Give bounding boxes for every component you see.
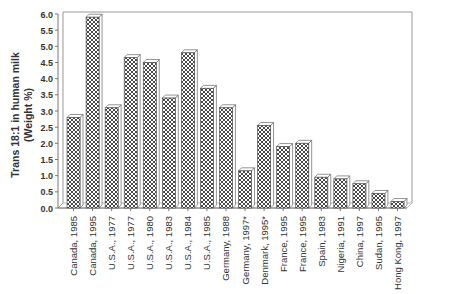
x-tick-label: Denmark, 1995*	[259, 216, 270, 285]
y-tick-label: 4.0	[40, 74, 53, 84]
bar	[258, 123, 274, 208]
bar	[353, 181, 369, 208]
y-axis: 0.00.51.01.52.02.53.03.54.04.55.05.56.0	[40, 10, 58, 214]
bar	[296, 140, 312, 208]
plot-area: 0.00.51.01.52.02.53.03.54.04.55.05.56.0 …	[0, 0, 455, 294]
bar	[334, 176, 350, 208]
y-tick-label: 0.5	[40, 187, 53, 197]
x-tick-label: U.S.A., 1984	[182, 216, 193, 270]
x-tick-label: U.S.A., 1985	[201, 216, 212, 270]
x-tick-label: China, 1997	[354, 216, 365, 267]
y-tick-label: 1.5	[40, 155, 53, 165]
bar	[315, 174, 331, 208]
x-tick-label: Nigeria, 1991	[335, 216, 346, 273]
bar	[143, 60, 159, 209]
bar	[181, 50, 197, 208]
bar	[67, 114, 83, 208]
x-tick-label: Hong Kong, 1997	[392, 216, 403, 290]
x-tick-label: U.S.A., 1977	[125, 216, 136, 270]
x-tick-label: Sudan, 1995	[373, 216, 384, 270]
x-tick-label: Germany, 1988	[220, 216, 231, 281]
y-tick-label: 5.5	[40, 26, 53, 36]
bar-chart: Trans 18:1 in human milk (Weight %) 0.00…	[0, 0, 455, 294]
bar	[239, 168, 255, 208]
y-tick-label: 6.0	[40, 10, 53, 20]
x-tick-label: France, 1995	[278, 216, 289, 272]
x-axis: Canada, 1985Canada, 1995U.S.A., 1977U.S.…	[68, 208, 403, 290]
bar	[105, 105, 121, 208]
bar	[162, 95, 178, 208]
y-tick-label: 5.0	[40, 42, 53, 52]
x-tick-label: U.S.A., 1980	[144, 216, 155, 270]
x-tick-label: Germany, 1997*	[240, 216, 251, 285]
y-tick-label: 3.0	[40, 107, 53, 117]
y-tick-label: 2.0	[40, 139, 53, 149]
bars	[67, 14, 407, 208]
y-tick-label: 3.5	[40, 90, 53, 100]
bar	[219, 105, 235, 208]
x-tick-label: U.S.A., 1977	[106, 216, 117, 270]
y-tick-label: 2.5	[40, 123, 53, 133]
y-tick-label: 0.0	[40, 204, 53, 214]
bar	[372, 190, 388, 208]
x-tick-label: France, 1995	[297, 216, 308, 272]
bar	[277, 144, 293, 208]
y-tick-label: 1.0	[40, 171, 53, 181]
bar	[124, 55, 140, 208]
bar	[391, 199, 407, 208]
x-tick-label: Canada, 1985	[68, 216, 79, 276]
x-tick-label: Spain, 1983	[316, 216, 327, 267]
x-tick-label: U.S.A., 1983	[163, 216, 174, 270]
bar	[200, 85, 216, 208]
bar	[86, 14, 102, 208]
y-tick-label: 4.5	[40, 58, 53, 68]
x-tick-label: Canada, 1995	[87, 216, 98, 276]
